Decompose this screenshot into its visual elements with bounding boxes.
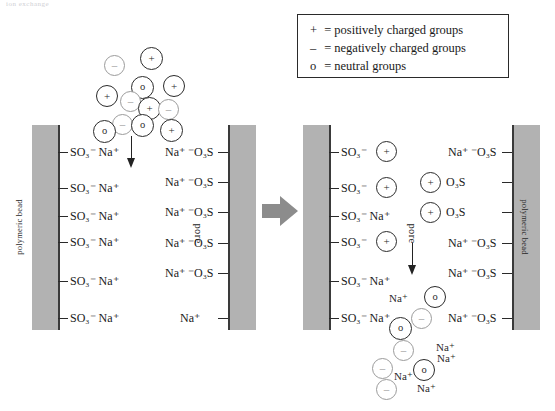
tick-right-2 [218, 212, 228, 213]
protein-cluster-entering: – + o + + – + – – o o + [0, 0, 265, 160]
tick-left-1 [58, 188, 68, 189]
tick-left-2 [58, 216, 68, 217]
row-label-left-4: SO₃⁻ Na⁺ [70, 275, 119, 287]
group-negative: – [158, 99, 179, 120]
row-label-left-5: SO₃⁻ Na⁺ [70, 312, 119, 324]
group-positive: + [140, 47, 163, 70]
tick-right-5 [218, 318, 228, 319]
group-neutral: o [413, 359, 435, 381]
group-negative: – [411, 308, 432, 329]
group-negative: – [393, 340, 414, 361]
panel-after: polymeric bead SO₃⁻ + SO₃⁻ + SO₃⁻ Na⁺ SO… [300, 0, 555, 411]
group-positive: + [163, 75, 185, 97]
group-neutral: o [424, 286, 446, 308]
group-negative: – [376, 379, 397, 400]
free-ion-sodium: Na⁺ [394, 371, 413, 382]
group-neutral: o [93, 120, 116, 143]
transition-arrow [262, 196, 298, 226]
free-ion-sodium: Na⁺ [389, 293, 408, 304]
free-ion-sodium: Na⁺ [437, 353, 456, 364]
pore-label-text: pore [193, 216, 204, 252]
group-neutral: o [131, 114, 154, 137]
tick-right-3 [218, 243, 228, 244]
group-positive: + [160, 119, 183, 142]
group-neutral: o [389, 317, 412, 340]
bead-left-before-label: polymeric bead [0, 222, 54, 234]
group-negative: – [104, 55, 125, 76]
row-label-left-2: SO₃⁻ Na⁺ [70, 210, 119, 222]
row-label-right-2: Na⁺ ⁻O₃S [165, 206, 214, 218]
tick-left-4 [58, 281, 68, 282]
row-label-right-1: Na⁺ ⁻O₃S [165, 176, 214, 188]
row-label-right-5: Na⁺ [180, 312, 200, 324]
row-label-left-1: SO₃⁻ Na⁺ [70, 182, 119, 194]
group-negative: – [372, 358, 393, 379]
free-ion-sodium: Na⁺ [417, 383, 436, 394]
tick-right-4 [218, 273, 228, 274]
tick-left-5 [58, 318, 68, 319]
row-label-left-3: SO₃⁻ Na⁺ [70, 236, 119, 248]
row-label-right-4: Na⁺ ⁻O₃S [165, 267, 214, 279]
protein-cluster-bound: o – o – – o – Na⁺ Na⁺ Na⁺ Na⁺ Na⁺ [300, 0, 555, 411]
tick-right-1 [218, 182, 228, 183]
tick-left-3 [58, 242, 68, 243]
bead-label-text: polymeric bead [14, 192, 24, 262]
group-positive: + [96, 85, 118, 107]
pore-label-before: pore [180, 228, 216, 240]
panel-before: polymeric bead SO₃⁻ Na⁺ SO₃⁻ Na⁺ SO₃⁻ Na… [0, 0, 265, 411]
